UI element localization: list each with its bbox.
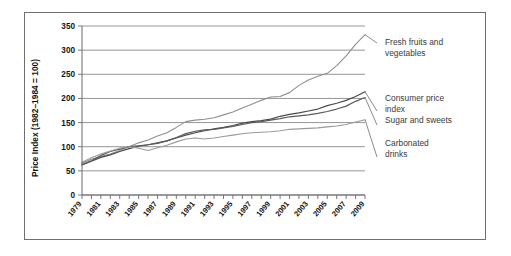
x-tick-label: 1981 (85, 199, 103, 218)
x-tick-label: 2005 (311, 199, 329, 218)
y-tick-label: 100 (61, 143, 75, 152)
series-label: Fresh fruits and (385, 37, 444, 47)
series-label: Consumer price (385, 93, 444, 103)
price-index-line-chart: Price Index (1982–1984 = 100) 0501001502… (25, 13, 485, 239)
y-tick-label: 300 (61, 46, 75, 55)
gridlines (82, 26, 365, 195)
y-tick-label: 150 (61, 119, 75, 128)
y-axis-title-group: Price Index (1982–1984 = 100) (30, 59, 40, 177)
y-tick-label: 200 (61, 94, 75, 103)
series-line (82, 35, 365, 163)
x-tick-label: 1991 (179, 199, 197, 218)
x-tick-label: 1993 (198, 200, 216, 219)
y-tick-label: 250 (61, 70, 75, 79)
series-label: Sugar and sweets (385, 115, 452, 125)
x-tick-label: 1983 (104, 200, 122, 219)
series-labels: Fresh fruits andvegetablesConsumer price… (385, 37, 452, 159)
x-tick-label: 2001 (273, 199, 291, 218)
series-label-leader (365, 35, 377, 43)
series-label: index (385, 104, 406, 114)
y-axis-ticks: 050100150200250300350 (61, 22, 82, 200)
series-label-leaders (365, 35, 377, 157)
series-label: Carbonated (385, 138, 429, 148)
y-tick-label: 50 (66, 167, 76, 176)
y-tick-label: 350 (61, 22, 75, 31)
x-tick-label: 2009 (349, 200, 367, 219)
x-tick-label: 1987 (141, 200, 159, 219)
x-tick-label: 1995 (217, 199, 235, 218)
x-tick-label: 1979 (66, 200, 84, 219)
x-tick-label: 1989 (160, 200, 178, 219)
chart-figure-frame: Price Index (1982–1984 = 100) 0501001502… (24, 12, 486, 240)
y-axis-title: Price Index (1982–1984 = 100) (30, 59, 40, 177)
x-tick-label: 2007 (330, 200, 348, 219)
series-label-leader (365, 120, 377, 157)
y-tick-label: 0 (70, 191, 75, 200)
x-tick-label: 2003 (292, 200, 310, 219)
series-line (82, 120, 365, 163)
x-tick-label: 1997 (236, 200, 254, 219)
x-tick-label: 1999 (254, 200, 272, 219)
series-label: vegetables (385, 48, 426, 58)
x-axis-ticks: 1979198119831985198719891991199319951997… (66, 195, 367, 218)
x-tick-label: 1985 (122, 199, 140, 218)
series-label: drinks (385, 149, 407, 159)
series-lines (82, 35, 365, 165)
